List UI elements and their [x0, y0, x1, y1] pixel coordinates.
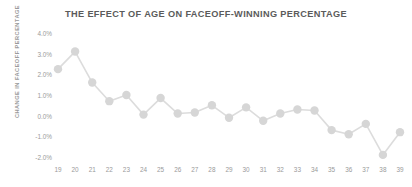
- data-point-marker: [54, 65, 62, 73]
- data-point-marker: [88, 78, 96, 86]
- data-point-marker: [156, 94, 164, 102]
- plot-area: [0, 0, 412, 187]
- data-point-marker: [327, 126, 335, 134]
- data-point-marker: [310, 106, 318, 114]
- data-point-marker: [139, 110, 147, 118]
- data-point-marker: [345, 130, 353, 138]
- data-point-marker: [71, 47, 79, 55]
- series-marker-group: [54, 47, 404, 159]
- data-point-marker: [259, 117, 267, 125]
- data-point-marker: [174, 109, 182, 117]
- data-point-marker: [105, 97, 113, 105]
- data-point-marker: [396, 128, 404, 136]
- data-point-marker: [225, 114, 233, 122]
- data-point-marker: [122, 91, 130, 99]
- data-point-marker: [242, 103, 250, 111]
- data-point-marker: [379, 151, 387, 159]
- data-point-marker: [362, 120, 370, 128]
- chart-container: THE EFFECT OF AGE ON FACEOFF-WINNING PER…: [0, 0, 412, 187]
- data-point-marker: [276, 109, 284, 117]
- data-point-marker: [208, 101, 216, 109]
- data-point-marker: [293, 105, 301, 113]
- data-point-marker: [191, 108, 199, 116]
